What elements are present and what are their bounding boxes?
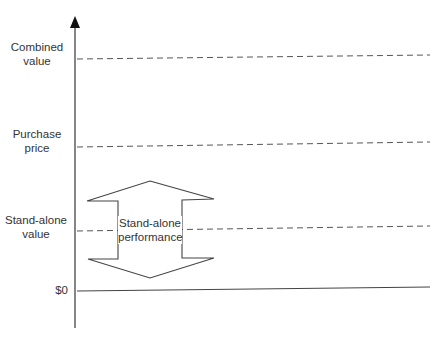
label-line: Stand-alone (0, 213, 72, 227)
label-line: Combined (2, 40, 72, 54)
label-line: value (0, 227, 72, 241)
combined-value-line (77, 55, 430, 59)
label-line: price (2, 141, 72, 155)
axis-arrowhead-icon (70, 16, 80, 28)
label-standalone-value: Stand-alone value (0, 213, 72, 241)
label-line: value (2, 54, 72, 68)
label-line: $0 (40, 283, 68, 297)
label-zero: $0 (40, 283, 68, 297)
label-standalone-performance: Stand-alone performance (118, 216, 182, 244)
zero-line (77, 287, 430, 291)
purchase-price-line (77, 142, 430, 147)
label-line: performance (118, 230, 182, 244)
label-line: Purchase (2, 127, 72, 141)
label-purchase-price: Purchase price (2, 127, 72, 155)
label-combined-value: Combined value (2, 40, 72, 68)
label-line: Stand-alone (118, 216, 182, 230)
